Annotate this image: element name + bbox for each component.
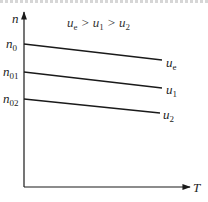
line-u1: [24, 72, 162, 88]
line-u2: [24, 99, 160, 113]
tick-n02: n02: [3, 92, 19, 108]
curve-label-u1: u1: [166, 83, 177, 99]
line-ue: [24, 44, 162, 60]
curve-label-u2: u2: [163, 108, 174, 124]
tick-n01: n01: [3, 65, 19, 81]
x-axis-label: T: [193, 181, 200, 194]
condition-title: ue > u1 > u2: [67, 15, 130, 32]
tick-n0: n0: [6, 37, 17, 53]
y-axis-label: n: [12, 12, 19, 25]
curve-label-ue: ue: [166, 56, 177, 72]
